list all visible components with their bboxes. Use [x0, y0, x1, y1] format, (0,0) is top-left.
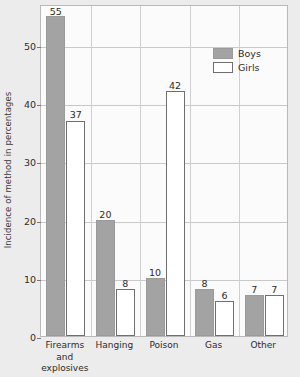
bar-value-label: 55: [50, 6, 62, 17]
bar-boys-4: [245, 295, 264, 336]
group-separator: [91, 6, 92, 336]
x-axis-label: Other: [250, 340, 276, 352]
bar-girls-2: [166, 91, 185, 336]
bar-girls-1: [116, 289, 135, 336]
y-axis-tick-label: 20: [24, 215, 36, 226]
y-axis-tick: [37, 105, 41, 106]
bar-value-label: 6: [222, 290, 228, 301]
y-axis-tick: [37, 338, 41, 339]
legend-swatch-boys-icon: [213, 48, 233, 59]
x-axis-category-labels: FirearmsandexplosivesHangingPoisonGasOth…: [40, 340, 288, 377]
y-axis-tick: [37, 47, 41, 48]
bar-chart: Incidence of method in percentages 01020…: [0, 0, 300, 377]
legend-label-girls: Girls: [238, 62, 260, 73]
gridline: [41, 105, 287, 106]
bar-girls-4: [265, 295, 284, 336]
bar-value-label: 7: [251, 284, 257, 295]
legend-swatch-girls-icon: [213, 62, 233, 73]
y-axis-tick: [37, 163, 41, 164]
y-axis-title-text: Incidence of method in percentages: [3, 92, 13, 249]
x-axis-label: Firearmsandexplosives: [41, 340, 88, 375]
bar-boys-0: [46, 16, 65, 336]
legend-item-girls: Girls: [213, 62, 261, 73]
y-axis-tick-labels: 01020304050: [16, 0, 38, 377]
y-axis-tick-label: 30: [24, 157, 36, 168]
y-axis-tick-label: 10: [24, 273, 36, 284]
y-axis-tick-label: 50: [24, 40, 36, 51]
y-axis-tick: [37, 222, 41, 223]
bar-value-label: 42: [169, 80, 181, 91]
x-axis-label: Hanging: [96, 340, 134, 352]
bar-girls-3: [215, 301, 234, 336]
chart-legend: Boys Girls: [213, 48, 261, 73]
y-axis-title: Incidence of method in percentages: [0, 0, 16, 340]
bar-boys-3: [195, 289, 214, 336]
y-axis-tick-label: 0: [30, 332, 36, 343]
bar-value-label: 20: [99, 209, 111, 220]
legend-label-boys: Boys: [238, 48, 261, 59]
y-axis-tick-label: 40: [24, 99, 36, 110]
x-axis-label: Poison: [149, 340, 178, 352]
bar-boys-1: [96, 220, 115, 336]
group-separator: [190, 6, 191, 336]
bar-value-label: 8: [202, 278, 208, 289]
legend-item-boys: Boys: [213, 48, 261, 59]
bar-value-label: 8: [122, 278, 128, 289]
x-axis-label: Gas: [205, 340, 222, 352]
bar-value-label: 10: [149, 267, 161, 278]
y-axis-tick: [37, 280, 41, 281]
bar-value-label: 7: [271, 284, 277, 295]
bar-girls-0: [66, 121, 85, 337]
bar-value-label: 37: [70, 109, 82, 120]
group-separator: [140, 6, 141, 336]
bar-boys-2: [146, 278, 165, 336]
